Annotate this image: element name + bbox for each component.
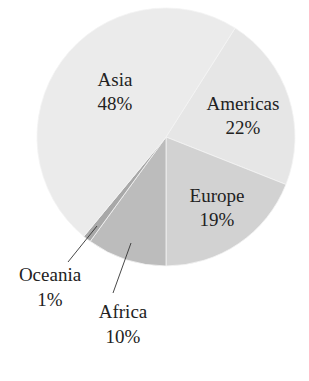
europe-percent: 19%	[200, 209, 235, 230]
americas-percent: 22%	[226, 117, 261, 138]
asia-label: Asia	[98, 69, 133, 90]
pie-chart: Asia 48% Americas 22% Europe 19% Oceania…	[0, 0, 309, 381]
oceania-label: Oceania	[19, 264, 82, 285]
africa-label: Africa	[99, 301, 148, 322]
americas-label: Americas	[207, 93, 280, 114]
oceania-percent: 1%	[37, 289, 63, 310]
europe-label: Europe	[190, 185, 245, 206]
africa-percent: 10%	[106, 326, 141, 347]
asia-percent: 48%	[98, 93, 133, 114]
